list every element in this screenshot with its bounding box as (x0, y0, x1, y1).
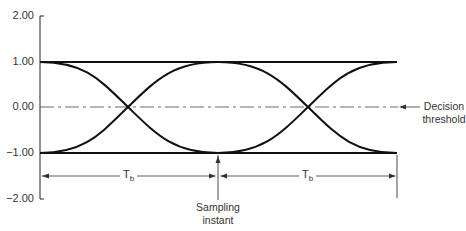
y-tick-neg1: −1.00 (0, 146, 34, 158)
decision-label-line2: threshold (422, 113, 466, 126)
tb-label-left: Tb (120, 168, 137, 183)
y-tick-1: 1.00 (0, 55, 34, 67)
y-tick-neg2: −2.00 (0, 192, 34, 204)
tb-sub: b (130, 174, 134, 183)
y-tick-2: 2.00 (0, 9, 34, 21)
decision-threshold-label: Decision threshold (422, 100, 466, 126)
sampling-label-line2: instant (188, 214, 248, 227)
tb-sub: b (309, 174, 313, 183)
tb-main: T (302, 168, 309, 180)
threshold-arrow (399, 105, 420, 110)
y-axis (40, 16, 44, 199)
sampling-arrow (216, 156, 221, 163)
tb-main: T (123, 168, 130, 180)
tb-label-right: Tb (299, 168, 316, 183)
decision-label-line1: Decision (422, 100, 466, 113)
sampling-instant-label: Sampling instant (188, 201, 248, 227)
sampling-label-line1: Sampling (188, 201, 248, 214)
y-tick-0: 0.00 (0, 100, 34, 112)
eye-transitions (40, 62, 397, 153)
